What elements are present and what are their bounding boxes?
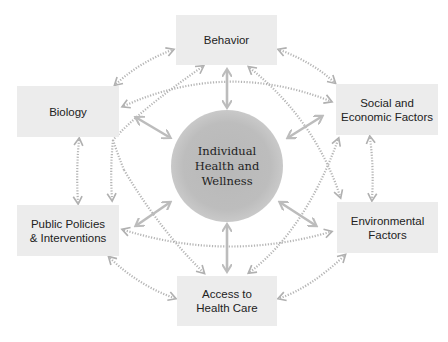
hub-label-line-2: Health and: [195, 159, 260, 174]
node-behavior: Behavior: [176, 15, 277, 65]
hub-label-line-1: Individual: [195, 144, 260, 159]
arrow-biology-policies: [77, 140, 79, 202]
arrow-biology-behavior: [116, 50, 172, 84]
arrow-biology-access-start: [113, 140, 124, 170]
node-environmental: Environmental Factors: [337, 202, 438, 253]
node-social-economic: Social and Economic Factors: [336, 84, 438, 135]
arrow-behavior-social: [280, 50, 334, 82]
health-determinants-diagram: Individual Health and Wellness Behavior …: [0, 0, 448, 342]
arrow-hub-environmental: [281, 203, 315, 225]
node-social-label-line-2: Economic Factors: [341, 110, 433, 124]
node-biology: Biology: [17, 86, 119, 137]
node-biology-label: Biology: [49, 105, 87, 119]
node-public-policies: Public Policies & Interventions: [17, 205, 119, 256]
hub-individual-health: Individual Health and Wellness: [171, 110, 283, 222]
node-access-health-care: Access to Health Care: [177, 276, 277, 326]
arrow-hub-policies: [137, 203, 169, 225]
node-access-label-line-2: Health Care: [196, 301, 257, 315]
node-environmental-label-line-2: Factors: [351, 228, 425, 242]
node-environmental-label-line-1: Environmental: [351, 214, 425, 228]
node-policies-label-line-1: Public Policies: [30, 217, 107, 231]
node-access-label-line-1: Access to: [196, 287, 257, 301]
arrow-behavior-policies-b: [111, 140, 113, 199]
hub-label-line-3: Wellness: [195, 174, 260, 189]
arrow-hub-biology: [137, 118, 169, 137]
node-behavior-label: Behavior: [204, 33, 249, 47]
node-policies-label-line-2: & Interventions: [30, 231, 107, 245]
arrow-social-environmental: [370, 138, 373, 199]
arrow-hub-social: [289, 117, 321, 137]
arrow-policies-access: [110, 258, 174, 298]
arrow-access-environmental: [280, 256, 344, 298]
node-social-label-line-1: Social and: [341, 96, 433, 110]
